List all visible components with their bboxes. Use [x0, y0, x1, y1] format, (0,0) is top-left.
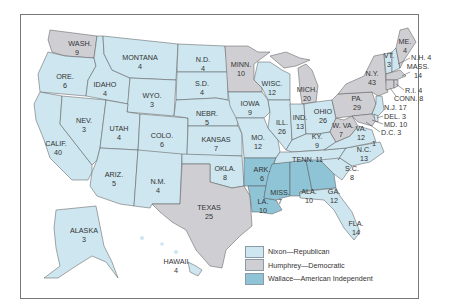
label-sc-votes: 8	[350, 173, 354, 182]
label-ma-votes: 14	[414, 71, 422, 80]
label-ga-name: GA.	[328, 187, 340, 196]
label-id-name: IDAHO	[94, 80, 117, 89]
label-al-name: ALA.	[301, 187, 317, 196]
label-nj: N.J. 17	[384, 103, 407, 112]
state-hi-islands	[160, 242, 164, 246]
label-mt-name: MONTANA	[122, 53, 158, 62]
label-ia-name: IOWA	[241, 99, 260, 108]
label-wy-votes: 3	[150, 100, 154, 109]
swatch-nixon	[245, 246, 264, 258]
label-ma-name: MASS.	[407, 62, 429, 71]
label-ia-votes: 9	[248, 108, 252, 117]
label-ky-votes: 9	[315, 141, 319, 150]
state-hi-islands	[140, 236, 144, 240]
label-me-votes: 4	[403, 46, 407, 55]
label-ak-name: ALASKA	[70, 226, 98, 235]
label-ct: CONN. 8	[394, 94, 423, 103]
label-ny-name: N.Y.	[365, 69, 378, 78]
label-mo-votes: 12	[254, 142, 262, 151]
label-tx-votes: 25	[205, 212, 213, 221]
label-al-votes: 10	[305, 196, 313, 205]
label-va-name: VA.	[355, 124, 366, 133]
label-oh-name: OHIO	[314, 107, 333, 116]
label-wi-name: WISC.	[262, 79, 283, 88]
label-ca-votes: 40	[54, 148, 62, 157]
label-ga-votes: 12	[330, 196, 338, 205]
label-mn-votes: 10	[237, 69, 245, 78]
label-mi-name: MICH.	[297, 85, 317, 94]
legend-label: Humphrey—Democratic	[268, 261, 345, 270]
label-pa-votes: 29	[353, 103, 361, 112]
label-ny-votes: 43	[368, 78, 376, 87]
swatch-humphrey	[245, 259, 264, 271]
label-ms-name: MISS.	[270, 188, 290, 197]
label-ar-votes: 6	[260, 174, 264, 183]
label-fl-votes: 14	[352, 228, 360, 237]
label-oh-votes: 26	[319, 116, 327, 125]
legend-item-humphrey: Humphrey—Democratic	[245, 259, 373, 272]
leader-ri	[396, 84, 404, 90]
label-ks-name: KANSAS	[201, 135, 230, 144]
label-nh: N.H. 4	[411, 53, 431, 62]
label-ok-name: OKLA.	[214, 164, 235, 173]
label-ne-votes: 5	[205, 118, 209, 127]
label-wv-votes: 7	[339, 130, 343, 139]
label-vt-votes: 3	[387, 60, 391, 69]
legend: Nixon—Republican Humphrey—Democratic Wal…	[245, 245, 373, 286]
label-la-votes: 10	[259, 206, 267, 215]
label-mt-votes: 4	[138, 62, 142, 71]
label-ak-votes: 3	[82, 235, 86, 244]
label-co-name: COLO.	[151, 131, 173, 140]
label-tx-name: TEXAS	[197, 203, 221, 212]
label-wi-votes: 12	[268, 88, 276, 97]
label-il-name: ILL.	[276, 118, 288, 127]
state-ct	[386, 80, 394, 90]
label-ky-name: KY.	[312, 132, 323, 141]
legend-item-wallace: Wallace—American Independent	[245, 272, 373, 285]
state-hi	[188, 262, 202, 276]
swatch-wallace	[245, 273, 264, 285]
label-az-name: ARIZ.	[105, 170, 123, 179]
label-or-name: ORE.	[56, 72, 74, 81]
label-az-votes: 5	[112, 179, 116, 188]
label-ar-name: ARK.	[254, 165, 271, 174]
state-ak	[44, 206, 118, 278]
label-ut-name: UTAH	[109, 124, 128, 133]
label-mi-votes: 20	[303, 94, 311, 103]
label-wv-name: W. VA.	[332, 121, 353, 130]
label-nv-votes: 3	[82, 125, 86, 134]
label-id-votes: 4	[103, 89, 107, 98]
state-hi-islands	[174, 250, 178, 254]
label-dc: D.C. 3	[381, 128, 401, 137]
label-nd-votes: 4	[201, 64, 205, 73]
label-wy-name: WYO.	[142, 91, 161, 100]
label-nd-name: N.D.	[196, 55, 210, 64]
label-sd-name: S.D.	[195, 79, 209, 88]
label-hi-name: HAWAII	[163, 257, 188, 266]
legend-item-nixon: Nixon—Republican	[245, 245, 373, 258]
label-wa-name: WASH.	[68, 39, 91, 48]
label-ms-votes: 7	[278, 197, 282, 206]
label-mn-name: MINN.	[231, 60, 251, 69]
label-sc-name: S.C.	[345, 164, 359, 173]
label-pa-name: PA.	[351, 94, 362, 103]
label-ne-name: NEBR.	[196, 109, 218, 118]
label-fl-name: FLA.	[348, 219, 363, 228]
label-in-name: IND.	[293, 113, 307, 122]
label-mo-name: MO.	[251, 133, 265, 142]
label-va-votes: 12	[357, 133, 365, 142]
legend-label: Nixon—Republican	[268, 247, 330, 256]
label-nv-name: NEV.	[76, 116, 92, 125]
label-ut-votes: 4	[117, 133, 121, 142]
label-wa-votes: 9	[75, 48, 79, 57]
label-nc-wallace: 1	[372, 139, 376, 148]
label-ca-name: CALIF.	[45, 139, 67, 148]
label-in-votes: 13	[296, 122, 304, 131]
state-ny	[338, 54, 388, 96]
label-la-name: LA.	[258, 197, 269, 206]
label-or-votes: 6	[63, 81, 67, 90]
label-hi-votes: 4	[174, 266, 178, 275]
label-nm-name: N.M.	[150, 177, 165, 186]
label-tn: TENN. 11	[292, 155, 323, 164]
us-electoral-map: WASH. 9 ORE. 6 CALIF. 40 IDAHO 4 NEV. 3 …	[0, 0, 454, 305]
